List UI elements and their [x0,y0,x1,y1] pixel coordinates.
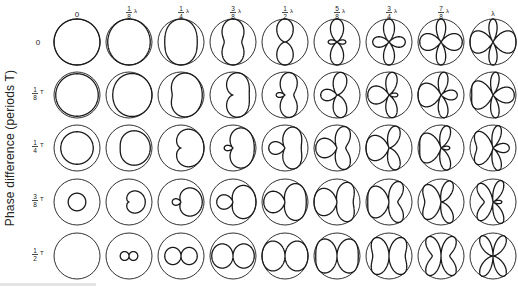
radiation-pattern [328,19,346,65]
unit-symbol: T [40,142,44,148]
pattern-cell [314,19,360,65]
radiation-pattern [165,247,198,264]
pattern-cell [366,233,412,279]
pattern-cell [54,125,100,171]
pattern-cell [366,179,412,225]
unit-symbol: λ [186,8,189,14]
column-header-6: 34λ [386,5,397,20]
column-header-1: 18λ [126,5,137,20]
pattern-cell [158,125,204,171]
radiation-pattern [321,72,347,117]
fraction-numerator: 1 [283,5,287,12]
radiation-pattern [262,241,308,271]
radiation-pattern [222,19,244,65]
fraction-denominator: 4 [33,147,37,154]
radiation-pattern [224,128,254,168]
pattern-cell [366,72,412,118]
pattern-cell [210,125,256,171]
fraction-numerator: 1 [127,5,131,12]
radiation-pattern [371,238,407,275]
unit-symbol: λ [394,8,397,14]
radiation-pattern [108,19,151,65]
column-header-3: 38λ [230,5,241,20]
footer-rule [0,283,96,286]
radiation-pattern [316,126,351,169]
pattern-cell [210,72,256,118]
row-headers: 018T14T38T12T [32,38,44,262]
fraction-numerator: 3 [33,193,37,200]
pattern-cell [158,233,204,279]
row-header-1: 18T [32,86,44,101]
pattern-cell [106,233,152,279]
unit-symbol: λ [491,10,495,17]
pattern-cell [158,72,204,118]
radiation-pattern [165,19,198,65]
pattern-cell [262,233,308,279]
pattern-cell [54,72,100,118]
pattern-cell [210,233,256,279]
pattern-cell [314,72,360,118]
radiation-pattern [120,131,150,165]
fraction-numerator: 5 [335,5,339,12]
radiation-pattern [426,236,456,275]
pattern-cell [418,19,464,65]
y-axis-label: Phase difference (periods T) [3,70,17,227]
radiation-pattern [177,129,204,167]
unit-symbol: λ [134,8,137,14]
unit-symbol: T [40,250,44,256]
fraction-denominator: 8 [33,94,37,101]
pattern-cell [262,179,308,225]
pattern-cell [262,19,308,65]
radiation-pattern [373,19,406,65]
unit-symbol: T [40,89,44,95]
radiation-pattern [212,244,255,268]
pattern-cells [54,19,516,279]
fraction-numerator: 7 [439,5,443,12]
pattern-cell [314,125,360,171]
radiation-pattern [366,126,400,170]
radiation-pattern-grid: 018λ14λ38λ12λ58λ34λ78λλ 018T14T38T12T [0,0,518,288]
reference-circle [54,72,100,118]
unit-symbol: λ [290,8,293,14]
radiation-pattern [68,193,86,211]
radiation-pattern [120,252,138,261]
radiation-pattern [277,19,293,65]
row-header-2: 14T [32,139,44,154]
pattern-cell [418,72,464,118]
pattern-cell [366,19,412,65]
fraction-numerator: 1 [33,247,37,254]
pattern-cell [470,179,516,225]
row-header-3: 38T [32,193,44,208]
radiation-pattern [264,184,307,221]
pattern-cell [106,125,152,171]
radiation-pattern [316,239,359,273]
radiation-pattern [56,74,99,117]
reference-circle [54,179,100,225]
radiation-pattern [420,19,463,65]
pattern-cell [262,72,308,118]
fraction-numerator: 1 [33,86,37,93]
pattern-cell [106,72,152,118]
row-header-4: 12T [32,247,44,262]
radiation-pattern [61,132,94,165]
pattern-cell [54,233,100,279]
pattern-cell [366,125,412,171]
pattern-cell [314,179,360,225]
column-header-5: 58λ [334,5,345,20]
fraction-numerator: 3 [387,5,391,12]
unit-symbol: λ [238,8,241,14]
unit-symbol: λ [342,8,345,14]
column-header-8: λ [491,10,495,17]
row-header-0: 0 [36,38,41,47]
radiation-pattern [127,191,145,213]
radiation-pattern [217,185,256,218]
pattern-cell [262,125,308,171]
reference-circle [210,19,256,65]
radiation-pattern [269,127,302,169]
column-header-4: 12λ [282,5,293,20]
radiation-pattern [368,181,404,222]
radiation-pattern [113,74,152,117]
pattern-cell [106,19,152,65]
radiation-pattern [423,181,454,223]
unit-symbol: T [40,196,44,202]
